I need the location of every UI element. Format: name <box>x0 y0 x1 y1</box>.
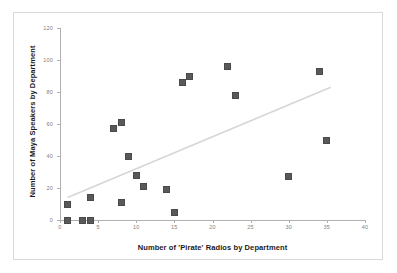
y-axis-line <box>60 28 61 220</box>
x-tick-mark <box>289 220 290 223</box>
data-point <box>179 79 186 86</box>
x-tick-mark <box>60 220 61 223</box>
data-point <box>323 137 330 144</box>
x-tick-label: 30 <box>279 224 299 230</box>
y-tick-mark <box>57 124 60 125</box>
y-tick-mark <box>57 60 60 61</box>
x-tick-label: 25 <box>241 224 261 230</box>
data-point <box>64 201 71 208</box>
data-point <box>285 173 292 180</box>
data-point <box>186 73 193 80</box>
plot-area: 0510152025303540 020406080100120 <box>0 0 397 273</box>
x-tick-label: 15 <box>164 224 184 230</box>
y-tick-mark <box>57 156 60 157</box>
x-tick-label: 5 <box>88 224 108 230</box>
data-point <box>87 194 94 201</box>
x-tick-mark <box>365 220 366 223</box>
x-tick-mark <box>327 220 328 223</box>
x-tick-mark <box>174 220 175 223</box>
y-tick-mark <box>57 92 60 93</box>
trendline <box>60 28 365 220</box>
x-tick-label: 10 <box>126 224 146 230</box>
x-tick-mark <box>213 220 214 223</box>
data-point <box>118 199 125 206</box>
data-point <box>79 217 86 224</box>
y-tick-mark <box>57 220 60 221</box>
data-point <box>232 92 239 99</box>
x-tick-mark <box>98 220 99 223</box>
data-point <box>316 68 323 75</box>
data-point <box>125 153 132 160</box>
data-point <box>224 63 231 70</box>
data-point <box>133 172 140 179</box>
data-point <box>163 186 170 193</box>
data-point <box>118 119 125 126</box>
y-tick-mark <box>57 188 60 189</box>
x-tick-label: 0 <box>50 224 70 230</box>
data-point <box>171 209 178 216</box>
x-tick-label: 20 <box>203 224 223 230</box>
data-point <box>87 217 94 224</box>
y-tick-mark <box>57 28 60 29</box>
x-tick-mark <box>251 220 252 223</box>
x-tick-label: 35 <box>317 224 337 230</box>
y-axis-title: Number of Maya Speakers by Department <box>28 27 37 217</box>
y-tick-label: 0 <box>33 217 53 223</box>
scatter-plot-screenshot: 0510152025303540 020406080100120 Number … <box>0 0 397 273</box>
x-tick-label: 40 <box>355 224 375 230</box>
x-tick-mark <box>136 220 137 223</box>
data-point <box>110 125 117 132</box>
data-point <box>140 183 147 190</box>
x-axis-title: Number of 'Pirate' Radios by Department <box>60 243 365 252</box>
data-point <box>64 217 71 224</box>
